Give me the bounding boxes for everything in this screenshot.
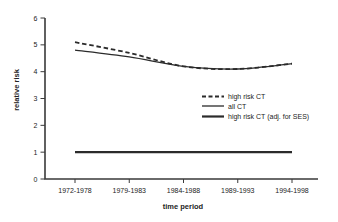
- y-tick-label: 0: [34, 176, 38, 183]
- line-chart: 01234561972-19781979-19831984-19881989-1…: [0, 0, 338, 222]
- y-tick-label: 3: [34, 95, 38, 102]
- chart-figure: 01234561972-19781979-19831984-19881989-1…: [0, 0, 338, 222]
- legend-label: all CT: [228, 103, 247, 110]
- y-tick-label: 4: [34, 68, 38, 75]
- series-line-high-risk-ct: [75, 42, 292, 69]
- x-tick-label: 1984-1988: [167, 187, 201, 194]
- x-axis-title: time period: [163, 202, 204, 211]
- plot-area: 01234561972-19781979-19831984-19881989-1…: [34, 15, 318, 194]
- x-tick-label: 1989-1993: [221, 187, 255, 194]
- y-tick-label: 6: [34, 15, 38, 22]
- legend-label: high risk CT: [228, 93, 266, 101]
- y-axis-title: relative risk: [12, 68, 21, 111]
- x-tick-label: 1972-1978: [58, 187, 92, 194]
- x-tick-label: 1979-1983: [113, 187, 147, 194]
- y-tick-label: 1: [34, 149, 38, 156]
- legend-label: high risk CT (adj. for SES): [228, 113, 309, 121]
- x-tick-label: 1994-1998: [275, 187, 309, 194]
- axes-line: [45, 18, 318, 179]
- y-tick-label: 5: [34, 41, 38, 48]
- y-tick-label: 2: [34, 122, 38, 129]
